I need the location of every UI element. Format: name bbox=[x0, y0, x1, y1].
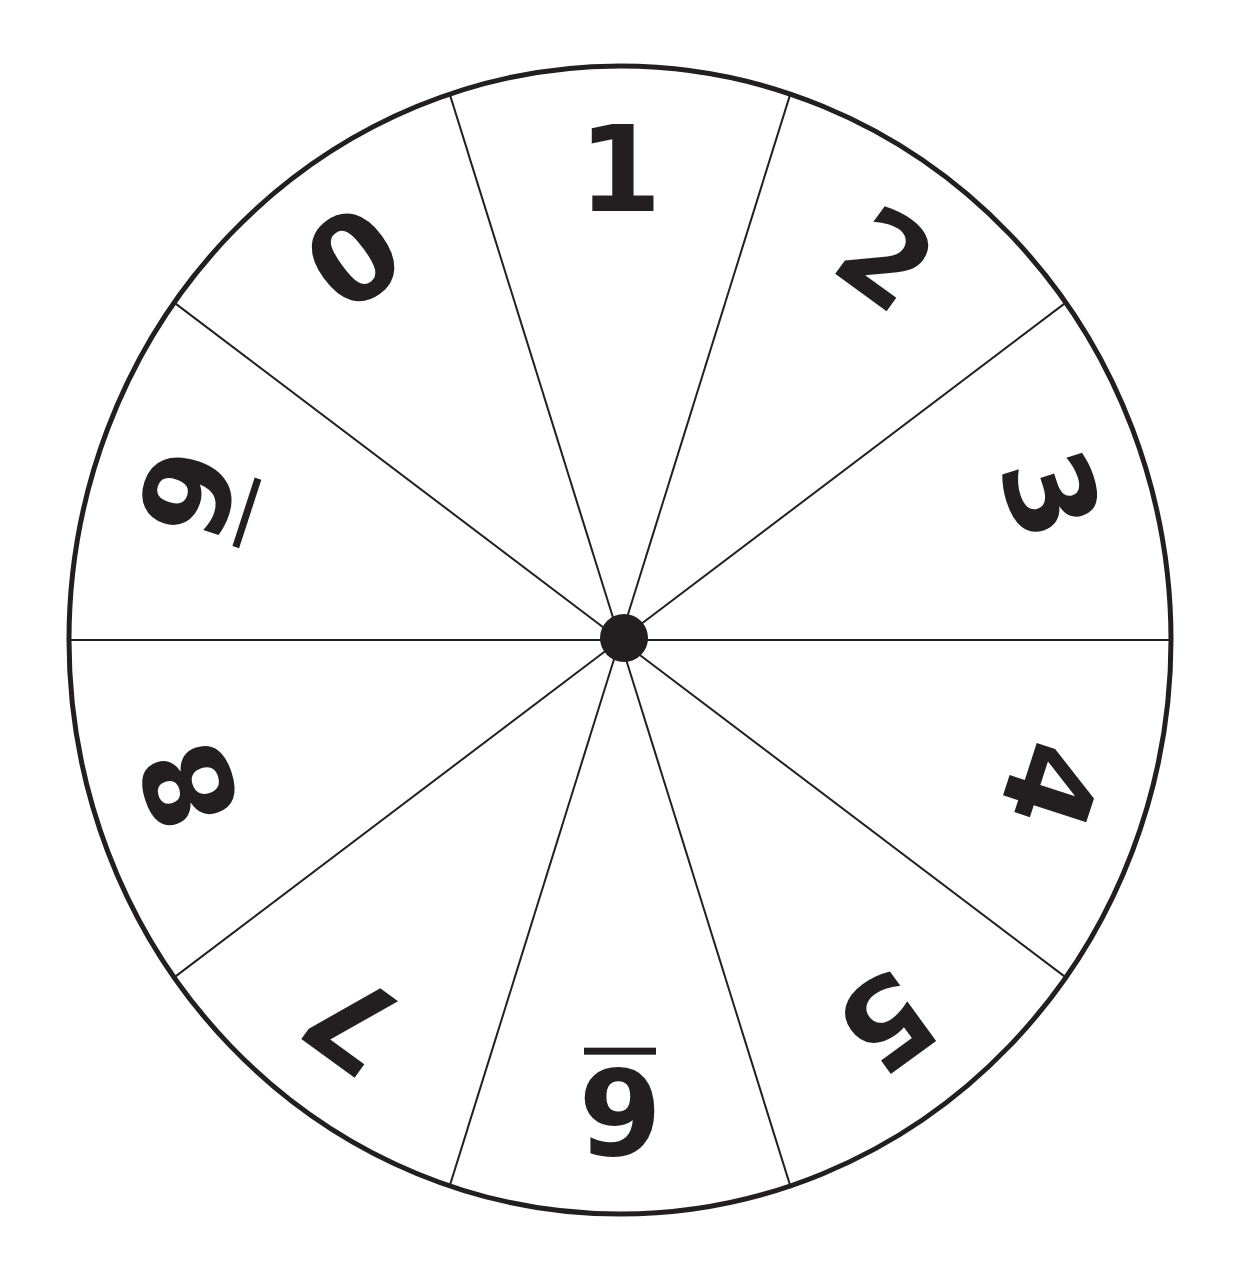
orientation-underline bbox=[584, 1048, 656, 1055]
sector-label: 1 bbox=[578, 100, 662, 239]
sector-label: 6 bbox=[578, 1041, 662, 1180]
center-hub bbox=[600, 614, 648, 662]
sector-6: 6 bbox=[578, 1041, 662, 1180]
sector-1: 1 bbox=[578, 100, 662, 239]
number-spinner-wheel: 1234567890 bbox=[0, 0, 1233, 1272]
